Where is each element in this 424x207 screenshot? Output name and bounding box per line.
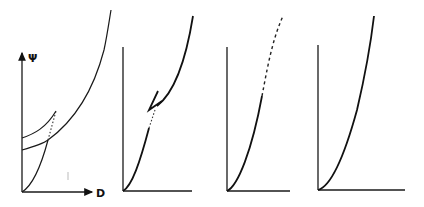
panel-2-upper-curve: [157, 16, 193, 106]
diagram-canvas: Ψ D: [0, 0, 424, 207]
y-axis-label: Ψ: [28, 52, 37, 65]
panel-2-jump-arrow: [149, 91, 162, 110]
panel-3-dashed-curve: [262, 16, 283, 96]
panel-1-dotted-segment: [48, 111, 56, 140]
panel-3-solid-curve: [227, 96, 262, 191]
panel-2: [123, 16, 193, 191]
panel-1: Ψ D: [22, 10, 111, 200]
panel-4: [318, 16, 405, 190]
panel-2-lower-curve: [123, 128, 149, 191]
panel-1-origin-curve: [22, 140, 48, 192]
panel-1-lower-branch: [22, 10, 111, 150]
panel-3: [227, 16, 290, 191]
panel-2-dotted-gap: [149, 110, 155, 128]
x-axis-label: D: [96, 187, 105, 200]
panel-4-curve: [318, 16, 374, 190]
panel-1-upper-branch: [22, 111, 56, 138]
